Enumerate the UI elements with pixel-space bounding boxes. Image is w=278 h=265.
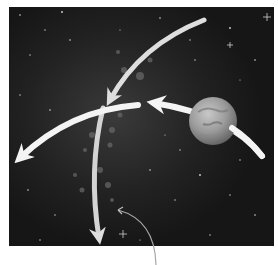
planet bbox=[189, 97, 237, 145]
space-diagram bbox=[0, 0, 278, 265]
diagram-canvas bbox=[0, 0, 278, 265]
